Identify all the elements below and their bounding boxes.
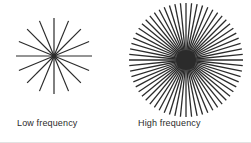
frequency-comparison-figure: Low frequency High frequency — [0, 0, 251, 143]
spoke — [54, 29, 81, 56]
low-frequency-star — [12, 14, 96, 98]
spoke — [54, 56, 81, 83]
spoke-group — [16, 18, 92, 94]
spoke-group — [129, 3, 243, 117]
center-hub — [176, 50, 196, 70]
spoke — [27, 29, 54, 56]
center-hub — [51, 53, 56, 58]
low-frequency-caption: Low frequency — [17, 118, 78, 128]
high-frequency-caption: High frequency — [138, 118, 201, 128]
spoke — [27, 56, 54, 83]
high-frequency-star — [126, 0, 246, 120]
